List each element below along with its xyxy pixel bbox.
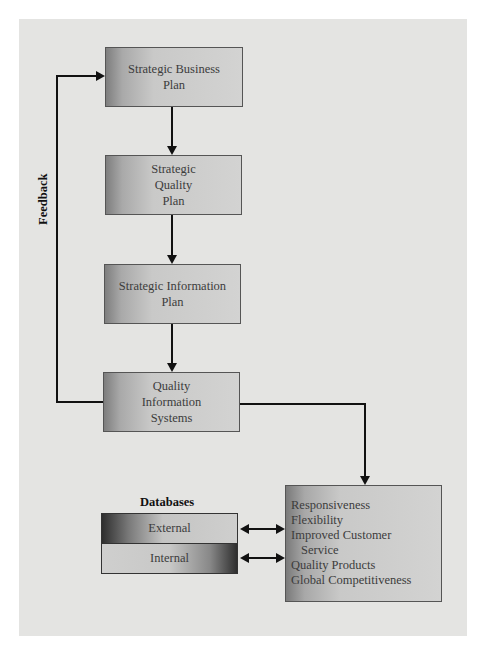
connector-line <box>171 215 173 256</box>
connector-line <box>171 107 173 147</box>
connector-line <box>171 324 173 364</box>
feedback-line <box>56 75 96 77</box>
node-line: Plan <box>119 294 226 310</box>
databases-title: Databases <box>140 495 194 510</box>
benefit-item: Service <box>291 543 441 558</box>
node-line: Plan <box>151 193 195 209</box>
node-line: Systems <box>142 410 202 426</box>
connector-line <box>248 528 278 530</box>
arrow-down-icon <box>167 363 177 372</box>
node-line: Strategic Information <box>119 278 226 294</box>
external-database-box: External <box>101 513 238 544</box>
node-line: Strategic Business <box>128 61 220 77</box>
arrow-right-icon <box>276 553 285 563</box>
strategic-business-plan-box: Strategic BusinessPlan <box>105 47 243 107</box>
internal-database-box: Internal <box>101 543 238 574</box>
connector-line <box>248 557 278 559</box>
arrow-down-icon <box>167 146 177 155</box>
node-line: Quality <box>142 378 202 394</box>
benefits-box: Responsiveness Flexibility Improved Cust… <box>285 485 442 602</box>
node-line: Plan <box>128 77 220 93</box>
connector-line <box>240 403 366 405</box>
feedback-line <box>56 75 58 403</box>
arrow-down-icon <box>360 476 370 485</box>
quality-information-systems-box: QualityInformationSystems <box>103 372 240 432</box>
arrow-right-icon <box>276 524 285 534</box>
strategic-quality-plan-box: StrategicQualityPlan <box>105 155 242 215</box>
connector-line <box>364 403 366 477</box>
arrow-right-icon <box>96 71 105 81</box>
node-line: Strategic <box>151 161 195 177</box>
benefit-item: Flexibility <box>291 513 441 528</box>
arrow-down-icon <box>167 255 177 264</box>
node-line: Information <box>142 394 202 410</box>
internal-label: Internal <box>150 551 189 566</box>
benefit-item: Responsiveness <box>291 498 441 513</box>
strategic-information-plan-box: Strategic InformationPlan <box>104 264 241 324</box>
external-label: External <box>148 521 190 536</box>
feedback-line <box>56 401 103 403</box>
node-line: Quality <box>151 177 195 193</box>
benefit-item: Global Competitiveness <box>291 573 441 588</box>
benefit-item: Improved Customer <box>291 528 441 543</box>
feedback-label: Feedback <box>36 174 51 225</box>
benefit-item: Quality Products <box>291 558 441 573</box>
